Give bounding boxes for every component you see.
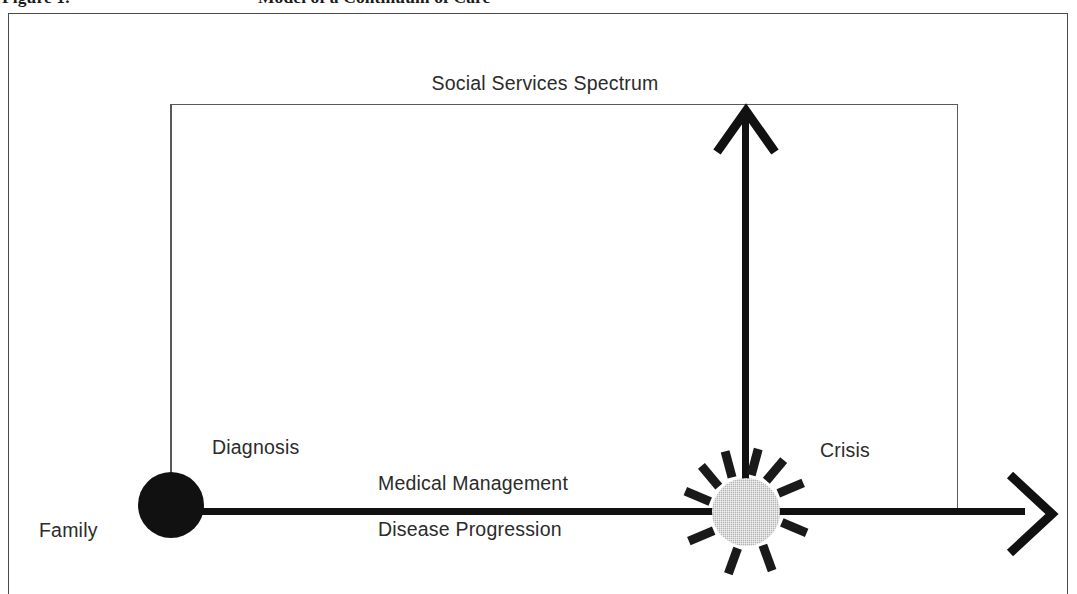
figure-caption: Figure 1. Model of a Continuum of Care [0,0,1077,9]
escalation-arrow-head-icon [711,102,781,158]
crisis-node-marker [712,478,780,546]
label-disease-progression: Disease Progression [378,518,562,541]
label-diagnosis: Diagnosis [212,436,299,459]
progression-axis-line [167,508,1025,515]
figure-frame: Social Services Spectrum [8,13,1068,594]
label-crisis: Crisis [820,439,870,462]
figure-page: Figure 1. Model of a Continuum of Care S… [0,0,1077,594]
figure-caption-number: Figure 1. [2,0,70,8]
progression-axis-arrowhead-icon [1004,469,1060,559]
figure-caption-text: Model of a Continuum of Care [258,0,490,8]
label-family: Family [39,519,98,542]
label-medical-management: Medical Management [378,472,568,495]
social-services-spectrum-label: Social Services Spectrum [407,72,683,95]
diagnosis-connector-line [170,104,172,504]
diagnosis-node-marker [138,472,204,538]
escalation-arrow-shaft [742,110,749,512]
